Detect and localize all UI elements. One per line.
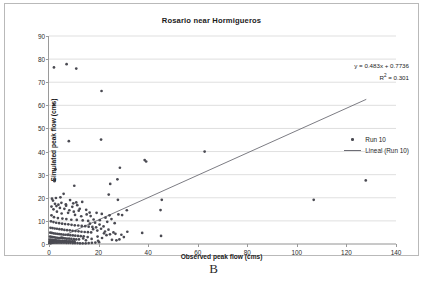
scatter-point xyxy=(56,227,59,230)
scatter-point xyxy=(71,240,74,243)
scatter-point xyxy=(58,228,61,231)
scatter-point xyxy=(66,229,69,232)
y-axis-tick-mark xyxy=(46,221,49,222)
scatter-point xyxy=(87,242,90,245)
scatter-point xyxy=(74,234,77,237)
x-axis-tick-mark xyxy=(346,244,347,247)
scatter-point xyxy=(118,238,121,241)
scatter-point xyxy=(67,223,70,226)
scatter-point xyxy=(60,212,63,215)
scatter-point xyxy=(67,140,70,143)
scatter-point xyxy=(87,231,90,234)
y-axis-tick-mark xyxy=(46,105,49,106)
scatter-point xyxy=(364,179,367,182)
scatter-point xyxy=(53,66,56,69)
scatter-point xyxy=(81,242,84,245)
scatter-point xyxy=(57,203,60,206)
scatter-point xyxy=(70,238,73,241)
scatter-point xyxy=(123,236,126,239)
x-axis-tick-mark xyxy=(148,244,149,247)
scatter-point xyxy=(68,209,71,212)
x-axis-tick-mark xyxy=(49,244,50,247)
scatter-point xyxy=(68,240,71,243)
scatter-point xyxy=(53,216,56,219)
scatter-point xyxy=(54,202,57,205)
scatter-point xyxy=(98,219,101,222)
y-axis-tick-mark xyxy=(46,36,49,37)
scatter-point xyxy=(80,230,83,233)
scatter-point xyxy=(108,214,111,217)
scatter-point xyxy=(74,214,77,217)
scatter-point xyxy=(73,184,76,187)
scatter-point xyxy=(77,235,80,238)
y-axis-tick-label: 80 xyxy=(38,56,45,63)
scatter-point xyxy=(91,241,94,244)
scatter-point xyxy=(96,229,99,232)
scatter-point xyxy=(61,228,64,231)
scatter-point xyxy=(101,237,104,240)
scatter-point xyxy=(82,237,85,240)
scatter-point xyxy=(159,209,162,212)
x-axis-tick-mark xyxy=(247,244,248,247)
figure-root: Rosario near Hormigueros y = 0.483x + 0.… xyxy=(0,0,427,288)
scatter-point xyxy=(109,233,112,236)
scatter-point xyxy=(100,213,103,216)
scatter-point xyxy=(81,201,84,204)
scatter-point xyxy=(92,228,95,231)
chart-title: Rosario near Hormigueros xyxy=(5,16,418,25)
scatter-point xyxy=(87,225,90,228)
scatter-point xyxy=(56,210,59,213)
scatter-point xyxy=(50,205,53,208)
y-axis-tick-label: 50 xyxy=(38,125,45,132)
scatter-point xyxy=(69,234,72,237)
scatter-point xyxy=(79,242,82,245)
scatter-point xyxy=(95,211,98,214)
scatter-point xyxy=(117,199,120,202)
scatter-point xyxy=(77,224,80,227)
scatter-point xyxy=(68,229,71,232)
scatter-point xyxy=(115,239,118,242)
scatter-point xyxy=(103,232,106,235)
scatter-point xyxy=(117,213,120,216)
chart-frame: Rosario near Hormigueros y = 0.483x + 0.… xyxy=(4,3,419,256)
scatter-point xyxy=(96,235,99,238)
scatter-point xyxy=(64,223,67,226)
scatter-point xyxy=(63,229,66,232)
scatter-point xyxy=(89,215,92,218)
scatter-point xyxy=(65,63,68,66)
y-axis-tick-label: 70 xyxy=(38,79,45,86)
y-axis-title: Simulated peak flow (cms) xyxy=(50,99,57,182)
scatter-point xyxy=(89,222,92,225)
scatter-point xyxy=(50,220,53,223)
scatter-point xyxy=(55,197,58,200)
y-axis-tick-mark xyxy=(46,59,49,60)
y-axis-tick-mark xyxy=(46,198,49,199)
scatter-point xyxy=(81,219,84,222)
x-axis-tick-mark xyxy=(99,244,100,247)
scatter-point xyxy=(72,210,75,213)
scatter-point xyxy=(95,226,98,229)
scatter-point xyxy=(83,231,86,234)
scatter-point xyxy=(85,213,88,216)
scatter-point xyxy=(97,239,100,242)
scatter-point xyxy=(113,222,116,225)
scatter-point xyxy=(102,225,105,228)
scatter-point xyxy=(65,240,68,243)
scatter-point xyxy=(71,229,74,232)
scatter-point xyxy=(88,211,91,214)
x-axis-tick-mark xyxy=(396,244,397,247)
scatter-point xyxy=(61,217,64,220)
y-axis-tick-label: 60 xyxy=(38,102,45,109)
scatter-point xyxy=(76,204,79,207)
scatter-point xyxy=(203,150,206,153)
y-axis-tick-label: 90 xyxy=(38,33,45,40)
scatter-point xyxy=(79,235,82,238)
scatter-point xyxy=(106,220,109,223)
plot-canvas xyxy=(49,36,396,244)
scatter-point xyxy=(84,225,87,228)
scatter-series xyxy=(48,63,367,245)
scatter-point xyxy=(58,222,61,225)
scatter-point xyxy=(100,227,103,230)
scatter-point xyxy=(86,236,89,239)
scatter-point xyxy=(78,238,81,241)
